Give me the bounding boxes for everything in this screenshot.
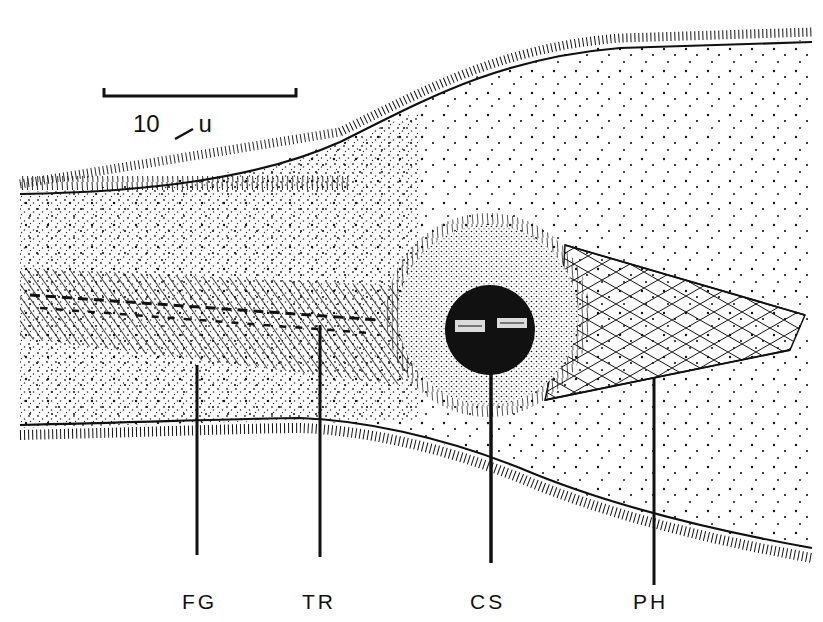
scale-bar <box>104 88 296 96</box>
scale-bar-label: 10 u <box>133 110 212 138</box>
label-ph: PH <box>633 590 668 614</box>
label-fg: FG <box>182 590 217 614</box>
label-cs: CS <box>470 590 505 614</box>
illustration <box>0 0 823 622</box>
label-tr: TR <box>302 590 336 614</box>
